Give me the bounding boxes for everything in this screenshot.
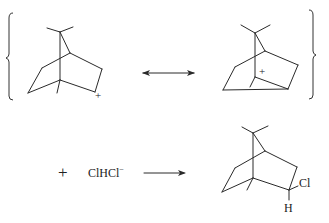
charge-label-2: +	[259, 66, 265, 77]
resonance-arrow	[142, 70, 195, 76]
reagent-text: ClHCl	[88, 166, 119, 180]
charge-label-1: +	[95, 90, 101, 101]
chloride-product-structure	[222, 126, 298, 200]
reagent-charge: −	[119, 165, 124, 174]
hydrogen-label: H	[284, 202, 293, 214]
left-bracket	[6, 13, 13, 100]
reaction-arrow	[144, 170, 186, 176]
plus-sign: +	[58, 164, 68, 181]
reaction-diagram	[0, 0, 329, 223]
carbocation-structure-2	[223, 25, 298, 90]
reagent-formula: ClHCl−	[88, 166, 124, 179]
chlorine-label: Cl	[299, 177, 310, 189]
right-bracket	[309, 10, 316, 99]
carbocation-structure-1	[28, 27, 102, 93]
